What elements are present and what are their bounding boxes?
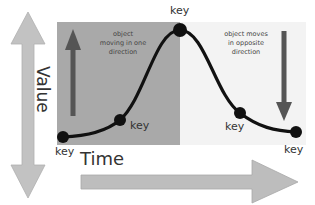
note-line: in opposite xyxy=(212,39,280,48)
keyframe-label-5: key xyxy=(284,143,303,156)
keyframe-label-1: key xyxy=(55,145,74,158)
falling-region-note: object moves in opposite direction xyxy=(212,30,280,57)
value-axis-label: Value xyxy=(33,66,53,113)
up-direction-arrow-icon xyxy=(65,29,81,116)
keyframe-label-4: key xyxy=(225,120,244,133)
keyframe-dot-5 xyxy=(290,126,302,138)
keyframe-dot-2 xyxy=(114,114,126,126)
rising-region-note: object moving in one direction xyxy=(88,30,158,57)
note-line: direction xyxy=(212,48,280,57)
keyframe-dot-1 xyxy=(57,131,69,143)
note-line: object moves xyxy=(212,30,280,39)
note-line: object xyxy=(88,30,158,39)
keyframe-label-2: key xyxy=(130,119,149,132)
keyframe-dot-4 xyxy=(234,107,246,119)
keyframe-dot-3 xyxy=(173,23,187,37)
time-axis-label: Time xyxy=(80,148,124,169)
note-line: moving in one xyxy=(88,39,158,48)
keyframe-label-3: key xyxy=(170,4,189,17)
note-line: direction xyxy=(88,48,158,57)
